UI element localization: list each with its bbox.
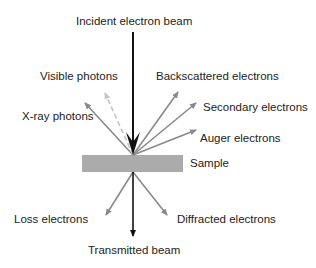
label-sample: Sample bbox=[190, 156, 229, 170]
label-incident-beam: Incident electron beam bbox=[76, 14, 192, 28]
label-auger-electrons: Auger electrons bbox=[200, 131, 281, 145]
label-backscattered: Backscattered electrons bbox=[156, 69, 279, 83]
visible-photons-arrow bbox=[105, 93, 133, 155]
label-transmitted-beam: Transmitted beam bbox=[88, 243, 180, 257]
label-diffracted-electrons: Diffracted electrons bbox=[177, 212, 276, 226]
label-loss-electrons: Loss electrons bbox=[14, 212, 88, 226]
electron-interaction-diagram: Incident electron beam Visible photons B… bbox=[0, 0, 316, 268]
label-secondary-electrons: Secondary electrons bbox=[203, 100, 308, 114]
diffracted-electrons-arrow bbox=[133, 172, 167, 215]
loss-electrons-arrow bbox=[106, 172, 133, 215]
label-xray-photons: X-ray photons bbox=[22, 109, 94, 123]
sample-block bbox=[82, 155, 183, 172]
label-visible-photons: Visible photons bbox=[40, 69, 118, 83]
